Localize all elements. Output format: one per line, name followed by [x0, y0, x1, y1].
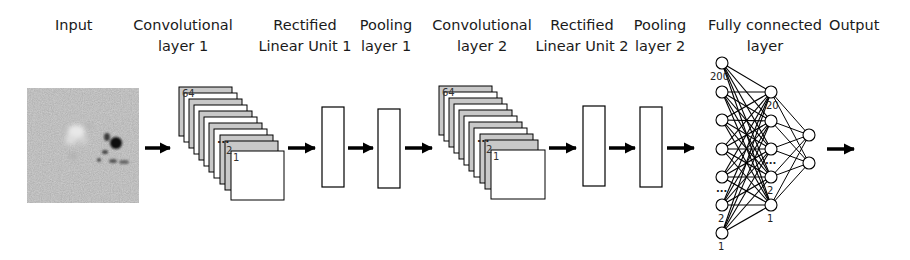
relu2-block [583, 106, 605, 186]
neuron-node [716, 143, 728, 155]
neuron-node [803, 157, 815, 169]
conv1-second-label: 2 [226, 145, 232, 156]
neuron-node [765, 199, 777, 211]
fc-input-top-label: 200 [710, 71, 729, 82]
neuron-node [716, 114, 728, 126]
fc-input-ellipsis: ... [716, 183, 727, 194]
neuron-node [716, 86, 728, 98]
relu1-block [322, 107, 344, 187]
neuron-node [803, 129, 815, 141]
fc-input-first-label: 1 [718, 241, 724, 252]
neuron-node [765, 171, 777, 183]
neuron-node [765, 143, 777, 155]
neuron-node [716, 199, 728, 211]
pool1-block [378, 109, 400, 188]
conv2-second-label: 2 [486, 144, 492, 155]
fc-input-neurons [716, 57, 728, 239]
neuron-node [765, 115, 777, 127]
neuron-node [716, 227, 728, 239]
fc-hidden-top-label: 20 [766, 100, 779, 111]
fc-hidden-first-label: 1 [767, 213, 773, 224]
cnn-architecture-diagram: 64 ... 2 1 64 ... 2 1 [0, 0, 910, 260]
neuron-node [716, 57, 728, 69]
fc-hidden-ellipsis: ... [765, 155, 776, 166]
fc-output-neurons [803, 129, 815, 169]
conv2-feature-maps [439, 86, 545, 199]
conv1-feature-maps [179, 87, 284, 200]
pool2-block [640, 107, 662, 187]
fc-hidden-second-label: 2 [767, 185, 773, 196]
conv1-top-label: 64 [182, 88, 195, 99]
fc-input-second-label: 2 [718, 213, 724, 224]
neuron-node [716, 171, 728, 183]
neuron-node [765, 86, 777, 98]
conv2-first-label: 1 [493, 151, 499, 162]
conv1-first-label: 1 [233, 152, 239, 163]
fc-connections-input-hidden [722, 63, 771, 233]
conv2-top-label: 64 [442, 87, 455, 98]
